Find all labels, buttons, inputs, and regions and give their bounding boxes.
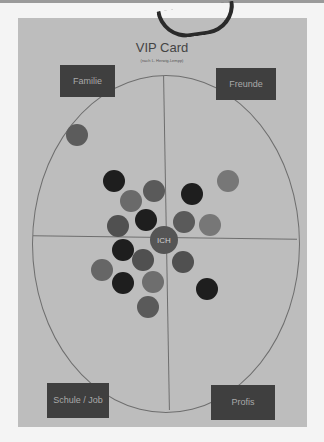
person-token <box>120 190 142 212</box>
center-label: ICH <box>157 236 171 245</box>
person-token <box>112 239 134 261</box>
quadrant-label-schule-job: Schule / Job <box>47 383 109 418</box>
top-edge <box>0 0 324 3</box>
person-token <box>143 180 165 202</box>
person-token <box>91 259 113 281</box>
quadrant-label-freunde: Freunde <box>216 68 276 100</box>
person-token <box>196 278 218 300</box>
person-token <box>103 170 125 192</box>
person-token <box>132 249 154 271</box>
person-token <box>137 296 159 318</box>
person-token <box>142 271 164 293</box>
person-token <box>173 211 195 233</box>
person-token <box>172 251 194 273</box>
center-ich: ICH <box>150 226 178 254</box>
quadrant-label-profis: Profis <box>211 385 275 420</box>
card-title: VIP Card <box>0 40 324 55</box>
person-token <box>107 215 129 237</box>
card-subtitle: (nach L. Herwig-Lempp) <box>0 58 324 63</box>
person-token <box>199 214 221 236</box>
quadrant-label-familie: Familie <box>60 65 115 97</box>
person-token <box>135 209 157 231</box>
person-token <box>66 124 88 146</box>
person-token <box>181 183 203 205</box>
person-token <box>112 272 134 294</box>
person-token <box>217 170 239 192</box>
